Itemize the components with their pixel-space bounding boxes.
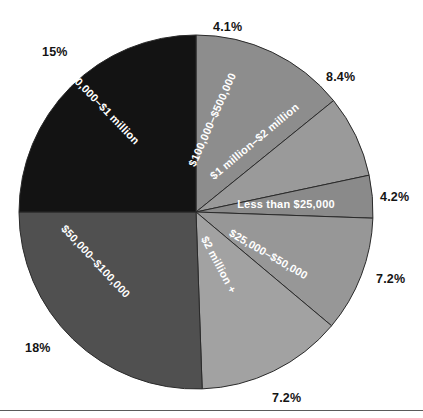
pie-slice[interactable]	[19, 212, 202, 389]
pie-slice[interactable]	[19, 35, 196, 212]
pie-percent-label: 4.1%	[213, 20, 242, 34]
pie-chart-canvas: $100,000–$500,000$1 million–$2 millionLe…	[0, 0, 423, 418]
pie-percent-label: 4.2%	[380, 190, 409, 204]
pie-percent-label: 18%	[25, 341, 51, 355]
pie-percent-label: 7.2%	[272, 391, 301, 405]
bottom-divider	[0, 410, 423, 411]
pie-percent-label: 8.4%	[326, 70, 355, 84]
pie-percent-label: 15%	[42, 45, 68, 59]
pie-percent-label: 7.2%	[376, 272, 405, 286]
pie-chart: $100,000–$500,000$1 million–$2 millionLe…	[0, 0, 423, 418]
pie-slices-group	[19, 35, 373, 389]
pie-slice-label: Less than $25,000	[237, 198, 335, 210]
